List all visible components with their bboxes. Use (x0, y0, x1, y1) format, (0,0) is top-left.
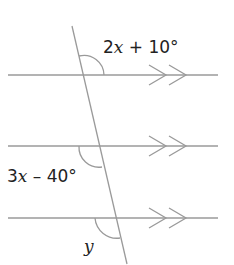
rest: + 10° (123, 37, 178, 57)
rest: – 40° (27, 166, 76, 186)
angle-label-bottom: y (84, 238, 94, 255)
diagram: 2x + 10° 3x – 40° y (0, 0, 234, 265)
coef: 3 (7, 166, 18, 186)
angle-arc-bottom-icon (95, 218, 120, 238)
variable: y (84, 236, 94, 256)
variable: x (114, 37, 124, 57)
angle-label-middle: 3x – 40° (7, 168, 77, 185)
variable: x (18, 166, 28, 186)
coef: 2 (103, 37, 114, 57)
angle-label-top: 2x + 10° (103, 39, 179, 56)
angle-arc-middle-icon (79, 146, 102, 167)
